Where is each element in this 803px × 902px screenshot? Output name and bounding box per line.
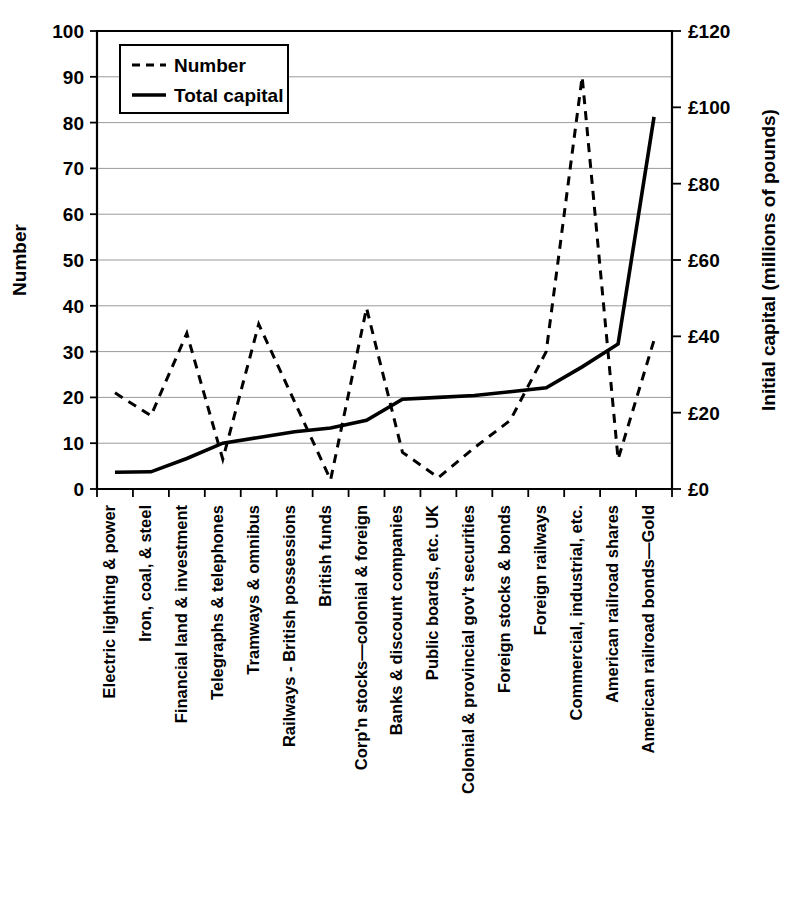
left-axis-tick-label: 90: [63, 67, 84, 88]
left-axis-tick-label: 20: [63, 387, 84, 408]
x-axis-category-label: Commercial, industrial, etc.: [567, 505, 585, 720]
series-line-total-capital: [115, 117, 654, 472]
left-axis-tick-label: 40: [63, 296, 84, 317]
secondary-y-axis-title: Initial capital (millions of pounds): [758, 109, 779, 411]
left-axis-tick-label: 70: [63, 158, 84, 179]
x-axis-category-label: Financial land & investment: [172, 504, 190, 723]
x-axis-category-label: American railroad bonds—Gold: [639, 505, 657, 753]
right-axis-tick-label: £120: [688, 21, 730, 42]
x-axis-category-label: Tramways & omnibus: [244, 505, 262, 675]
right-axis-tick-label: £20: [688, 403, 720, 424]
chart-legend: NumberTotal capital: [120, 45, 288, 113]
series-line-number: [115, 77, 654, 480]
data-series: [115, 77, 654, 480]
x-axis-category-label: Foreign stocks & bonds: [495, 505, 513, 693]
left-axis-tick-label: 0: [73, 479, 84, 500]
right-axis-tick-labels: £0£20£40£60£80£100£120: [688, 21, 730, 500]
x-axis-category-label: British funds: [316, 505, 334, 607]
x-axis-category-label: Banks & discount companies: [387, 505, 405, 735]
left-axis-tick-label: 10: [63, 433, 84, 454]
x-axis-category-label: Railways - British possessions: [280, 505, 298, 747]
x-axis-ticks: [97, 489, 672, 497]
x-axis-category-label: American railroad shares: [603, 505, 621, 703]
left-axis-tick-label: 30: [63, 342, 84, 363]
x-axis-category-label: Foreign railways: [531, 505, 549, 635]
gridlines: [97, 77, 672, 443]
left-axis-tick-label: 60: [63, 204, 84, 225]
left-axis-tick-label: 80: [63, 113, 84, 134]
right-axis-tick-label: £100: [688, 97, 730, 118]
right-axis-tick-label: £40: [688, 326, 720, 347]
left-axis-tick-label: 50: [63, 250, 84, 271]
x-axis-category-label: Public boards, etc. UK: [423, 505, 441, 680]
legend-label: Total capital: [174, 85, 283, 106]
left-axis-tick-labels: 0102030405060708090100: [52, 21, 84, 500]
chart-container: 0102030405060708090100 £0£20£40£60£80£10…: [0, 0, 803, 902]
legend-label: Number: [174, 55, 246, 76]
y-axis-title: Number: [9, 224, 30, 296]
right-axis-tick-label: £60: [688, 250, 720, 271]
right-axis-ticks: [672, 31, 681, 489]
right-axis-tick-label: £0: [688, 479, 709, 500]
x-axis-category-label: Corp'n stocks—colonial & foreign: [352, 505, 370, 770]
x-axis-category-label: Electric lighting & power: [100, 504, 118, 698]
category-labels: Electric lighting & powerIron, coal, & s…: [100, 504, 657, 794]
x-axis-category-label: Iron, coal, & steel: [136, 505, 154, 642]
line-chart: 0102030405060708090100 £0£20£40£60£80£10…: [0, 0, 803, 902]
right-axis-tick-label: £80: [688, 174, 720, 195]
left-axis-tick-label: 100: [52, 21, 84, 42]
x-axis-category-label: Telegraphs & telephones: [208, 505, 226, 700]
x-axis-category-label: Colonial & provincial gov't securities: [459, 505, 477, 794]
